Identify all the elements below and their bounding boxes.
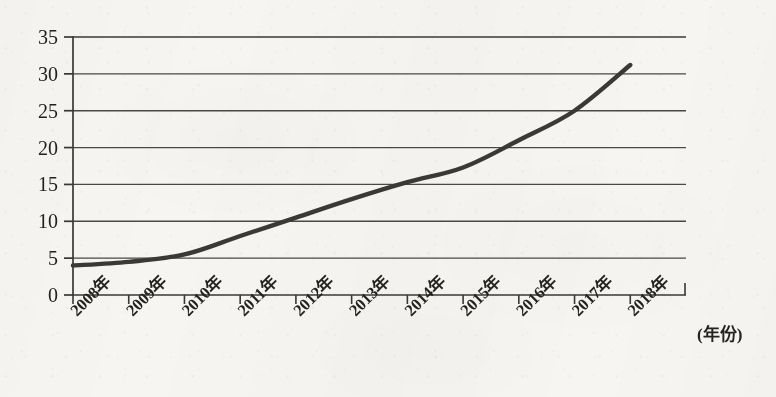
x-axis-tick-labels-group: 2008年2009年2010年2011年2012年2013年2014年2015年… (66, 270, 673, 319)
y-axis-tick-label: 25 (38, 100, 58, 122)
y-axis-tick-label: 30 (38, 63, 58, 85)
chart-canvas: 05101520253035 2008年2009年2010年2011年2012年… (0, 0, 776, 397)
y-axis-tick-label: 10 (38, 210, 58, 232)
y-axis-tick-label: 15 (38, 173, 58, 195)
y-axis-tick-label: 0 (48, 284, 58, 306)
x-axis-caption: (年份) (697, 324, 742, 344)
gridlines-group (73, 74, 686, 295)
y-axis-tick-label: 20 (38, 137, 58, 159)
y-axis-tick-labels-group: 05101520253035 (38, 26, 58, 306)
data-series-line (73, 65, 630, 266)
line-chart-figure: 05101520253035 2008年2009年2010年2011年2012年… (0, 0, 776, 397)
y-axis-tick-label: 5 (48, 247, 58, 269)
y-axis-tick-label: 35 (38, 26, 58, 48)
y-axis-ticks-group (64, 37, 73, 295)
